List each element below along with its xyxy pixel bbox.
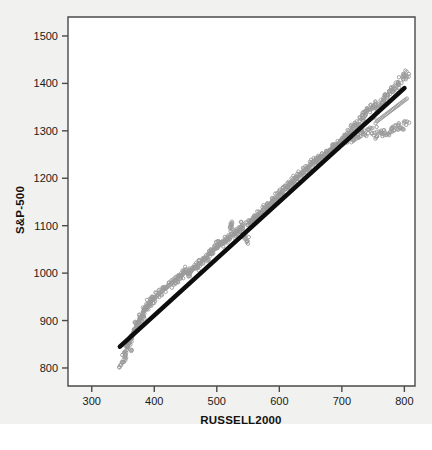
y-tick-label: 1500 [34, 30, 58, 42]
x-axis-title: RUSSELL2000 [200, 414, 281, 426]
x-axis-ticks [92, 386, 405, 392]
plot-area-background [68, 17, 415, 386]
x-tick-label: 600 [270, 395, 288, 407]
y-axis-tick-labels: 800900100011001200130014001500 [34, 30, 58, 374]
y-axis-ticks [62, 36, 68, 368]
x-tick-label: 700 [333, 395, 351, 407]
x-tick-label: 500 [208, 395, 226, 407]
x-tick-label: 300 [83, 395, 101, 407]
x-tick-label: 800 [395, 395, 413, 407]
y-axis-title: S&P-500 [14, 186, 26, 234]
y-tick-label: 800 [40, 362, 58, 374]
plot-canvas: 300400500600700800 800900100011001200130… [0, 0, 432, 450]
y-tick-label: 1100 [34, 220, 58, 232]
scatter-plot-figure: 300400500600700800 800900100011001200130… [0, 0, 432, 450]
y-tick-label: 1400 [34, 77, 58, 89]
y-tick-label: 1200 [34, 172, 58, 184]
y-tick-label: 1000 [34, 267, 58, 279]
y-tick-label: 1300 [34, 125, 58, 137]
y-tick-label: 900 [40, 315, 58, 327]
x-tick-label: 400 [145, 395, 163, 407]
x-axis-tick-labels: 300400500600700800 [83, 395, 414, 407]
